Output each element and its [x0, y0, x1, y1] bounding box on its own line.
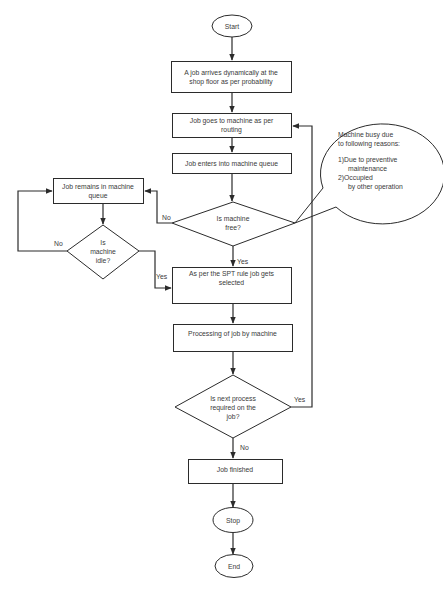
job-arrives-text: A job arrives dynamically at the shop fl… [171, 61, 291, 92]
remains-line-1: Job remains in machine [62, 182, 134, 191]
machine-free-line-2: free? [225, 223, 241, 232]
idle-line-3: idle? [96, 256, 110, 265]
reason-1-line-1: Due to preventive [344, 156, 397, 163]
callout-title-line-2: to following reasons: [338, 139, 403, 148]
enters-queue-line-1: Job enters into machine queue [185, 159, 278, 168]
job-finished-text: Job finished [188, 459, 282, 479]
spt-line-1: As per the SPT rule job gets [189, 269, 274, 278]
job-arrives-line-2: shop floor as per probability [189, 77, 273, 86]
end-text: End [228, 562, 240, 571]
next-line-3: job? [227, 412, 240, 421]
stop-label: Stop [213, 508, 253, 533]
callout-text: Machine busy due to following reasons: 1… [338, 130, 403, 191]
goes-line-1: Job goes to machine as per [190, 116, 274, 125]
idle-line-2: machine [90, 247, 116, 256]
reason-2-line-2: by other operation [338, 182, 403, 191]
callout-reason-2: 2)Occupied [338, 173, 403, 182]
processing-line-1: Processing of job by machine [188, 329, 277, 338]
idle-line-1: Is [100, 238, 105, 247]
machine-free-text: Is machine free? [193, 212, 273, 234]
next-line-2: required on the [210, 403, 256, 412]
next-line-1: Is next process [210, 394, 256, 403]
callout-title-line-1: Machine busy due [338, 130, 403, 139]
edge-label-idle-yes: Yes [156, 273, 167, 281]
arrow-next-yes [291, 126, 312, 407]
job-arrives-line-1: A job arrives dynamically at the [184, 68, 278, 77]
edge-label-free-yes: Yes [237, 258, 248, 266]
arrow-idle-yes [139, 251, 171, 288]
edge-label-idle-no: No [54, 240, 63, 248]
remains-line-2: queue [89, 191, 108, 200]
edge-label-free-no: No [162, 214, 171, 222]
edge-label-next-yes: Yes [294, 396, 305, 404]
reason-2-line-1: Occupied [344, 174, 373, 181]
callout-reason-1: 1)Due to preventive [338, 155, 403, 164]
callout-gap [338, 148, 403, 155]
processing-text: Processing of job by machine [173, 324, 292, 342]
reason-1-line-2: maintenance [338, 164, 403, 173]
enters-queue-text: Job enters into machine queue [172, 153, 291, 173]
job-finished-line-1: Job finished [217, 465, 253, 474]
spt-selected-text: As per the SPT rule job gets selected [172, 267, 291, 289]
goes-to-machine-text: Job goes to machine as per routing [172, 113, 291, 137]
spt-line-2: selected [219, 278, 244, 287]
machine-idle-text: Is machine idle? [78, 237, 128, 266]
goes-line-2: routing [221, 125, 242, 134]
start-text: Start [225, 22, 239, 31]
edge-label-next-no: No [240, 444, 249, 452]
next-process-text: Is next process required on the job? [193, 393, 273, 421]
end-label: End [215, 555, 253, 578]
start-label: Start [212, 15, 252, 37]
machine-free-line-1: Is machine [217, 214, 250, 223]
remains-in-queue-text: Job remains in machine queue [53, 178, 143, 203]
stop-text: Stop [226, 516, 240, 525]
